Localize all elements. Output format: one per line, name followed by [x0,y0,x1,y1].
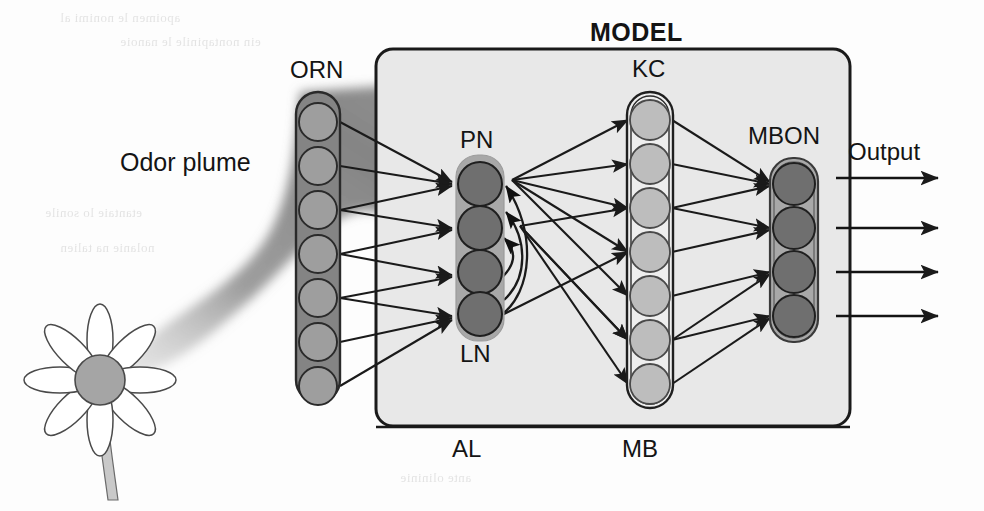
mbon-layer [770,158,818,342]
kc-layer [627,92,673,408]
orn-layer [296,92,340,405]
orn-label: ORN [290,56,343,84]
model-title: MODEL [590,18,683,47]
ln-neuron [458,292,502,336]
mbon-label: MBON [748,122,820,150]
al-region-label: AL [452,435,481,463]
figure-canvas: apoimen le nonimi al ein nontapinile le … [0,0,984,511]
pn-neuron [458,206,502,250]
al-layer [456,155,504,341]
pn-neuron [458,162,502,206]
output-label: Output [848,138,920,166]
diagram-svg [0,0,984,511]
ln-label: LN [460,340,491,368]
kc-label: KC [632,55,665,83]
mb-region-label: MB [622,435,658,463]
ln-neuron [458,250,502,294]
flower-center [75,355,125,405]
flower [24,304,176,500]
odor-plume-label: Odor plume [120,148,251,177]
pn-label: PN [460,126,493,154]
